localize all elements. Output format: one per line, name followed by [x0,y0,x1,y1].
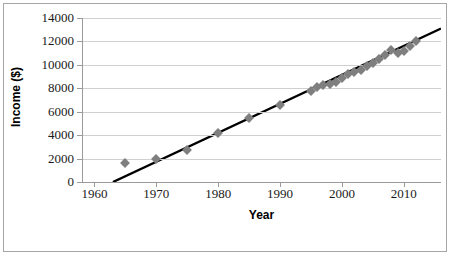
x-tick-label: 1970 [126,187,186,201]
x-tick-label: 2000 [312,187,372,201]
gridline-horizontal [82,41,441,42]
x-tick-label: 1980 [188,187,248,201]
y-axis-title-wrap: Income ($) [0,0,20,200]
y-tick-mark [77,135,82,136]
x-axis-title: Year [82,208,441,222]
x-tick-label: 1990 [250,187,310,201]
y-tick-label: 2000 [14,152,74,165]
gridline-horizontal [82,159,441,160]
y-tick-mark [77,159,82,160]
y-tick-label: 10000 [14,58,74,71]
x-tick-label: 1960 [64,187,124,201]
gridline-horizontal [82,112,441,113]
y-tick-label: 14000 [14,11,74,24]
plot-area [82,18,441,182]
trendline [82,18,441,182]
y-tick-mark [77,112,82,113]
x-tick-label: 2010 [374,187,434,201]
y-axis-line [82,18,83,182]
y-tick-label: 8000 [14,81,74,94]
y-tick-mark [77,65,82,66]
y-tick-mark [77,182,82,183]
chart-container: Income ($) Year 020004000600080001000012… [0,0,453,257]
y-tick-mark [77,18,82,19]
y-tick-label: 6000 [14,105,74,118]
gridline-horizontal [82,88,441,89]
gridline-horizontal [82,18,441,19]
y-tick-label: 12000 [14,34,74,47]
gridline-horizontal [82,135,441,136]
x-axis-line [82,182,441,183]
gridline-horizontal [82,65,441,66]
y-tick-mark [77,88,82,89]
y-tick-label: 4000 [14,128,74,141]
y-tick-mark [77,41,82,42]
